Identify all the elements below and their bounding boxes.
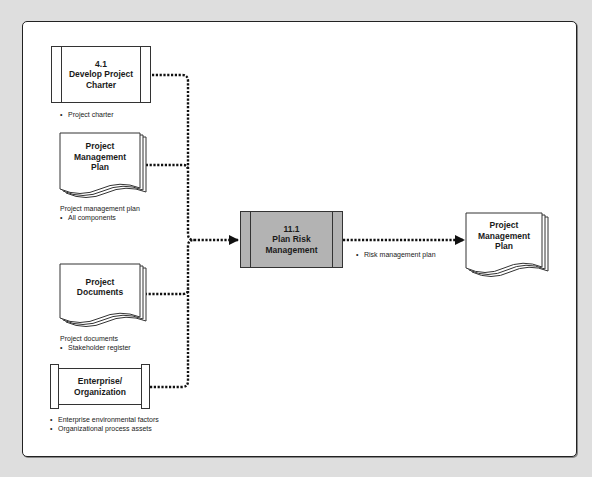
doc-label: Project Management Plan [60,133,140,181]
process-title-line: Develop Project [69,69,133,80]
note-bullet: Organizational process assets [50,424,159,433]
doc-title-line: Project [86,141,115,152]
process-plan-risk-management: 11.1 Plan Risk Management [240,211,343,268]
doc-title-line: Plan [91,162,109,173]
process-develop-project-charter: 4.1 Develop Project Charter [51,46,151,103]
process-number: 11.1 [266,224,318,235]
enterprise-band: Enterprise/ Organization [58,368,142,405]
doc-title-line: Project [86,277,115,288]
process-develop-charter-label: 4.1 Develop Project Charter [69,59,133,91]
note-bullet: Project charter [60,110,114,119]
note-pm-plan: Project management plan All components [60,204,140,222]
doc-title-line: Management [74,152,126,163]
input-doc-project-documents: Project Documents [60,264,146,324]
doc-title-line: Project [490,220,519,231]
enterprise-right-cap [141,364,150,409]
output-flow-label: Risk management plan [356,250,436,259]
diagram-stage: 4.1 Develop Project Charter Project char… [0,0,592,477]
process-title-line: Plan Risk [266,234,318,245]
doc-label: Project Management Plan [466,213,542,259]
note-heading: Project management plan [60,204,140,213]
enterprise-label: Enterprise/ Organization [74,376,126,397]
enterprise-title-line: Enterprise/ [74,376,126,387]
note-project-charter: Project charter [60,110,114,119]
process-title-line: Charter [69,80,133,91]
doc-title-line: Plan [495,241,513,252]
doc-title-line: Documents [77,287,123,298]
note-bullet: Stakeholder register [60,343,131,352]
input-doc-project-management-plan: Project Management Plan [60,133,146,195]
note-enterprise: Enterprise environmental factors Organiz… [50,415,159,433]
enterprise-left-cap [50,364,59,409]
note-bullet: Enterprise environmental factors [50,415,159,424]
process-number: 4.1 [69,59,133,70]
note-bullet: All components [60,213,140,222]
note-heading: Project documents [60,334,131,343]
process-plan-risk-label: 11.1 Plan Risk Management [266,224,318,256]
note-bullet: Risk management plan [356,250,436,259]
doc-title-line: Management [478,231,530,242]
process-title-line: Management [266,245,318,256]
enterprise-title-line: Organization [74,387,126,398]
output-doc-project-management-plan: Project Management Plan [466,213,548,273]
doc-label: Project Documents [60,264,140,310]
input-enterprise-organization: Enterprise/ Organization [50,364,150,409]
note-project-documents: Project documents Stakeholder register [60,334,131,352]
